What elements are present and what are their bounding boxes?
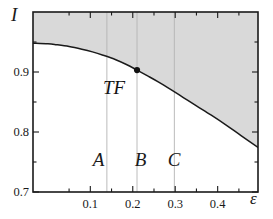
region-label-B: B: [135, 150, 147, 169]
region-label-A: A: [93, 150, 105, 169]
y-tick-label: 0.7: [3, 186, 29, 199]
x-tick-label: 0.2: [121, 198, 145, 211]
x-tick-label: 0.1: [78, 198, 102, 211]
y-axis-label: I: [11, 5, 17, 24]
y-tick-label: 0.8: [3, 126, 29, 139]
x-axis-label: ε: [250, 190, 257, 207]
x-tick-label: 0.3: [163, 198, 187, 211]
tf-label: TF: [103, 78, 125, 97]
marker-point-TF: [134, 67, 140, 73]
x-tick-label: 0.4: [206, 198, 230, 211]
shaded-region: [33, 12, 258, 147]
plot-canvas: [0, 0, 273, 219]
tf-marker-point: [134, 67, 140, 73]
region-label-C: C: [168, 150, 181, 169]
y-tick-label: 0.9: [3, 66, 29, 79]
phase-diagram-figure: I ε TF 0.10.20.30.40.70.80.9 ABC: [0, 0, 273, 219]
